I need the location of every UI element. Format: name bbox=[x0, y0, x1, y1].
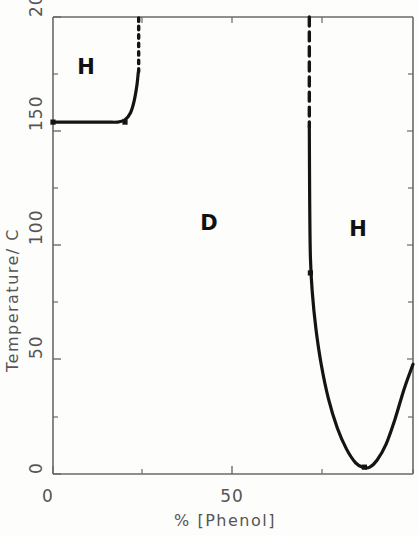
chart-canvas: 200 150 100 50 0 Temperature/ C 0 50 % [… bbox=[0, 0, 419, 535]
y-axis-title: Temperature/ C bbox=[3, 228, 22, 373]
data-markers bbox=[50, 120, 367, 470]
data-curves bbox=[53, 17, 413, 468]
data-point-marker bbox=[308, 270, 313, 275]
curve-right-phase-boundary-solid bbox=[309, 127, 413, 468]
data-point-marker bbox=[122, 120, 127, 125]
curve-left-phase-boundary-solid bbox=[53, 72, 138, 122]
top-border-ticks bbox=[142, 17, 322, 23]
x-tick-label-0: 0 bbox=[42, 486, 54, 506]
region-label-h-left: H bbox=[77, 55, 95, 79]
y-tick-label-100: 100 bbox=[26, 210, 46, 245]
x-axis-title: % [Phenol] bbox=[174, 511, 276, 530]
x-axis-tick-labels: 0 50 bbox=[42, 486, 244, 506]
y-tick-label-150: 150 bbox=[26, 96, 46, 131]
y-tick-label-50: 50 bbox=[26, 335, 46, 359]
y-axis-major-ticks bbox=[53, 17, 61, 474]
region-label-d: D bbox=[200, 211, 217, 235]
y-tick-label-200: 200 bbox=[26, 0, 46, 17]
data-point-marker bbox=[50, 120, 55, 125]
phase-diagram-figure: 200 150 100 50 0 Temperature/ C 0 50 % [… bbox=[0, 0, 419, 535]
y-axis-tick-labels: 200 150 100 50 0 bbox=[26, 0, 46, 474]
axes-frame bbox=[53, 17, 413, 474]
data-point-marker bbox=[362, 465, 367, 470]
region-label-h-right: H bbox=[349, 217, 367, 241]
x-tick-label-50: 50 bbox=[220, 486, 244, 506]
y-tick-label-0: 0 bbox=[26, 462, 46, 474]
